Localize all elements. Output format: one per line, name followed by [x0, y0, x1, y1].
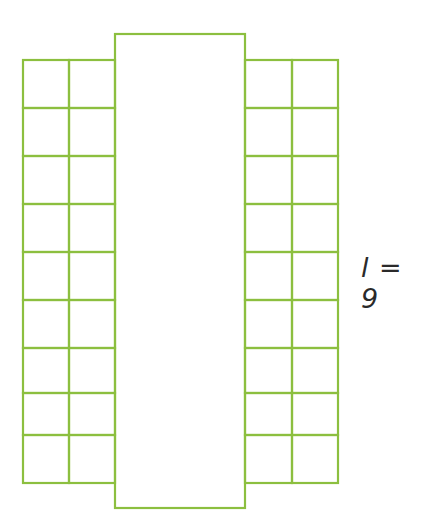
unit-square: [245, 393, 292, 435]
unit-square: [23, 60, 69, 108]
unit-square: [292, 435, 338, 483]
unit-square: [245, 204, 292, 252]
unit-square: [23, 435, 69, 483]
unit-square: [292, 156, 338, 204]
right-grid: [245, 60, 338, 483]
unit-square: [245, 300, 292, 348]
unit-square: [245, 435, 292, 483]
unit-square: [245, 348, 292, 393]
unit-square: [292, 393, 338, 435]
unit-square: [292, 348, 338, 393]
unit-square: [245, 60, 292, 108]
left-grid: [23, 60, 115, 483]
length-label: l = 9: [361, 252, 427, 314]
unit-square: [69, 108, 115, 156]
unit-square: [23, 300, 69, 348]
unit-square: [69, 348, 115, 393]
unit-square: [245, 252, 292, 300]
unit-square: [23, 156, 69, 204]
unit-square: [23, 348, 69, 393]
unit-square: [292, 60, 338, 108]
unit-square: [245, 108, 292, 156]
unit-square: [69, 60, 115, 108]
unit-square: [23, 252, 69, 300]
unit-square: [69, 156, 115, 204]
unit-square: [69, 435, 115, 483]
unit-square: [292, 108, 338, 156]
unit-square: [23, 204, 69, 252]
central-rectangle: [115, 34, 245, 508]
unit-square: [69, 252, 115, 300]
unit-square: [245, 156, 292, 204]
unit-square: [292, 300, 338, 348]
unit-square: [69, 204, 115, 252]
unit-square: [292, 252, 338, 300]
unit-square: [69, 300, 115, 348]
unit-square: [292, 204, 338, 252]
unit-square: [23, 108, 69, 156]
unit-square: [23, 393, 69, 435]
unit-square: [69, 393, 115, 435]
